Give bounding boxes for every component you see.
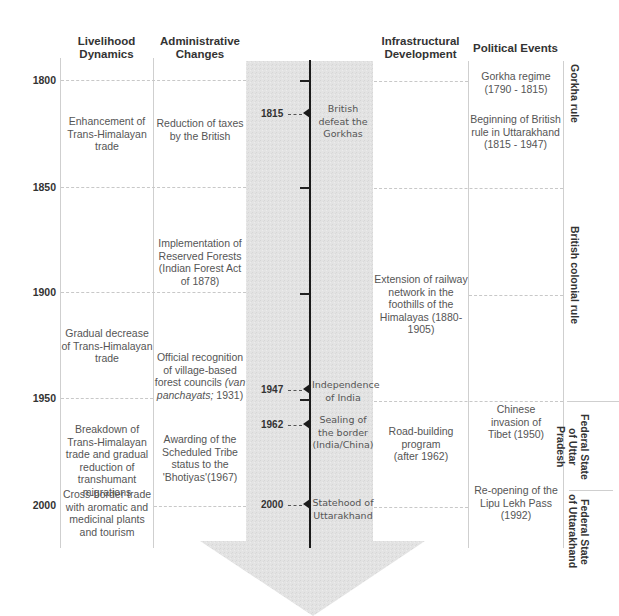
event-leader-2000 bbox=[288, 505, 302, 506]
timeline-tick-1900 bbox=[300, 293, 310, 295]
event-year-1947: 1947 bbox=[261, 384, 283, 395]
gridline-1950-right bbox=[374, 401, 563, 402]
event-label-2000: Statehood of Uttarakhand bbox=[312, 497, 374, 522]
livelihood-item: Breakdown of Trans-Himalayan trade and g… bbox=[60, 423, 154, 498]
period-uttarakhand: Federal State of Uttarakhand bbox=[563, 494, 591, 569]
period-uttar-pradesh: Federal State of Uttar Pradesh bbox=[563, 408, 591, 486]
gridline-1850-left bbox=[61, 187, 246, 188]
gridline-1950-left bbox=[61, 398, 153, 399]
administrative-item-text-end: 1931) bbox=[216, 389, 243, 401]
infrastructural-item: Extension of railway network in the foot… bbox=[374, 273, 468, 336]
gridline-1900-political bbox=[469, 295, 563, 296]
arrow-left-icon bbox=[303, 499, 310, 509]
period-uttarakhand-label: Federal State of Uttarakhand bbox=[567, 494, 591, 568]
political-item: Gorkha regime (1790 - 1815) bbox=[478, 70, 554, 95]
event-leader-1962 bbox=[288, 425, 302, 426]
year-label-1950: 1950 bbox=[16, 392, 56, 404]
period-gorkha-rule: Gorkha rule bbox=[569, 61, 581, 125]
arrow-left-icon bbox=[303, 419, 310, 429]
livelihood-item: Enhancement of Trans-Himalayan trade bbox=[64, 115, 150, 153]
infrastructural-item: Road-building program (after 1962) bbox=[388, 425, 454, 463]
political-item: Re-opening of the Lipu Lekh Pass (1992) bbox=[470, 484, 562, 522]
gridline-1800-left bbox=[61, 80, 246, 81]
event-year-2000: 2000 bbox=[261, 499, 283, 510]
livelihood-item: Cross-border trade with aromatic and med… bbox=[60, 488, 154, 538]
timeline-tick-1850 bbox=[300, 187, 310, 189]
year-label-1800: 1800 bbox=[16, 74, 56, 86]
gridline-1900-left bbox=[61, 292, 246, 293]
header-administrative: Administrative Changes bbox=[150, 35, 250, 61]
divider-period-up bbox=[567, 401, 619, 402]
gridline-1800-right bbox=[374, 81, 468, 82]
administrative-item: Implementation of Reserved Forests (Indi… bbox=[155, 237, 245, 287]
timeline-line bbox=[309, 60, 311, 548]
timeline-tick-1800 bbox=[300, 80, 310, 82]
year-label-1850: 1850 bbox=[16, 181, 56, 193]
livelihood-item: Gradual decrease of Trans-Himalayan trad… bbox=[61, 327, 153, 365]
event-label-1962: Sealing of the border (India/China) bbox=[312, 414, 374, 452]
event-label-1815: British defeat the Gorkhas bbox=[312, 103, 374, 141]
year-label-1900: 1900 bbox=[16, 286, 56, 298]
gridline-1850-right bbox=[374, 188, 563, 189]
divider-period-separator bbox=[569, 490, 613, 491]
administrative-item: Awarding of the Scheduled Tribe status t… bbox=[154, 433, 246, 483]
political-item: Beginning of British rule in Uttarakhand… bbox=[468, 113, 563, 151]
timeline-band bbox=[200, 61, 425, 616]
period-british-colonial-rule: British colonial rule bbox=[569, 215, 581, 335]
event-label-1947: Independence of India bbox=[312, 379, 374, 404]
timeline-tick-1950 bbox=[300, 399, 310, 401]
arrow-left-icon bbox=[303, 108, 310, 118]
header-political: Political Events bbox=[468, 42, 563, 55]
gridline-2000-admin bbox=[154, 506, 246, 507]
administrative-item: Reduction of taxes by the British bbox=[156, 117, 244, 142]
political-item: Chinese invasion of Tibet (1950) bbox=[482, 403, 550, 441]
administrative-item: Official recognition of village-based fo… bbox=[154, 351, 246, 401]
event-year-1962: 1962 bbox=[261, 419, 283, 430]
event-leader-1947 bbox=[288, 390, 302, 391]
header-infrastructural: Infrastructural Development bbox=[373, 35, 468, 61]
year-label-2000: 2000 bbox=[16, 499, 56, 511]
gridline-2000-infra bbox=[374, 507, 468, 508]
event-leader-1815 bbox=[288, 114, 302, 115]
event-year-1815: 1815 bbox=[261, 108, 283, 119]
header-livelihood: Livelihood Dynamics bbox=[60, 35, 153, 61]
arrow-left-icon bbox=[303, 384, 310, 394]
